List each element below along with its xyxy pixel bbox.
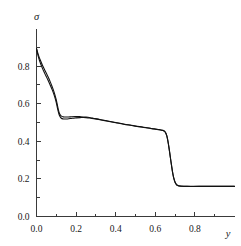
chart-figure: σ y 0.00.20.40.60.80.00.20.40.60.8: [0, 0, 241, 246]
y-axis-label: σ: [34, 11, 40, 22]
y-tick-label: 0.0: [18, 212, 30, 222]
x-tick-label: 0.4: [110, 224, 122, 234]
y-tick-label: 0.6: [18, 99, 30, 109]
x-axis-label: y: [225, 228, 231, 239]
curves-group: [37, 49, 235, 187]
axes-group: [37, 29, 235, 217]
x-tick-label: 0.2: [70, 224, 82, 234]
tick-labels-group: 0.00.20.40.60.80.00.20.40.60.8: [18, 62, 201, 234]
line-chart-plot: σ y 0.00.20.40.60.80.00.20.40.60.8: [0, 0, 241, 246]
x-tick-label: 0.6: [149, 224, 161, 234]
y-tick-label: 0.4: [18, 137, 30, 147]
y-tick-label: 0.2: [18, 174, 30, 184]
ticks-group: [37, 47, 215, 216]
data-curve: [37, 49, 235, 187]
y-tick-label: 0.8: [18, 62, 30, 72]
x-tick-label: 0.0: [31, 224, 43, 234]
x-tick-label: 0.8: [189, 224, 201, 234]
